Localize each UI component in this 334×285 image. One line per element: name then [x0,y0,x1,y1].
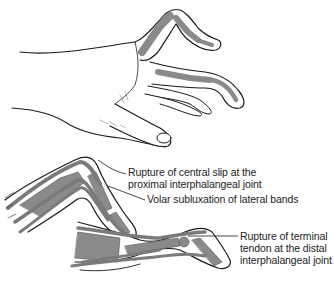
label-central-slip-line1: Rupture of central slip at the [128,166,262,178]
label-lateral-bands-text: Volar subluxation of lateral bands [147,193,298,205]
label-terminal-tendon-line1: Rupture of terminal [240,230,332,242]
label-lateral-bands: Volar subluxation of lateral bands [147,193,298,205]
label-terminal-tendon: Rupture of terminal tendon at the distal… [240,230,332,266]
hand-illustration [12,10,244,147]
anatomical-illustration: Rupture of central slip at the proximal … [0,0,334,285]
leader-line-central-slip [98,160,126,174]
label-central-slip-line2: proximal interphalangeal joint [128,178,262,190]
boutonniere-finger-illustration [5,157,136,240]
label-terminal-tendon-line3: interphalangeal joint [240,254,332,266]
label-central-slip: Rupture of central slip at the proximal … [128,166,262,190]
mallet-finger-illustration [72,222,230,271]
label-terminal-tendon-line2: tendon at the distal [240,242,332,254]
